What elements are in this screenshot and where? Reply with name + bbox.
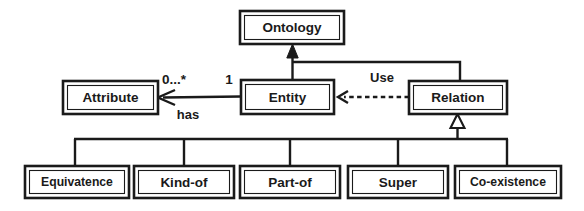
class-box-entity[interactable]: Entity [241, 80, 334, 114]
super-label: Super [379, 175, 418, 190]
class-box-co-existence[interactable]: Co-existence [455, 166, 561, 198]
hollow-triangle-arrowhead-relation [451, 114, 465, 128]
relation-label: Relation [431, 90, 484, 105]
open-arrowhead-entity [338, 91, 348, 103]
solid-triangle-arrowhead-ontology [287, 44, 298, 58]
class-box-super[interactable]: Super [348, 166, 448, 198]
entity-attribute-line [163, 97, 241, 98]
association-name-has: has [177, 107, 199, 122]
part-of-label: Part-of [268, 175, 312, 190]
edge-relation-to-entity-use [338, 91, 409, 103]
multiplicity-label-attribute-end: 0...* [162, 72, 187, 87]
attribute-label: Attribute [82, 90, 139, 105]
multiplicity-label-entity-end: 1 [225, 72, 233, 87]
diagram-canvas: Ontology Attribute Entity Relation Equiv… [0, 0, 584, 211]
uml-class-diagram: Ontology Attribute Entity Relation Equiv… [0, 0, 584, 211]
edge-entity-to-attribute [158, 90, 241, 105]
class-box-kind-of[interactable]: Kind-of [134, 166, 234, 198]
ontology-label: Ontology [262, 20, 322, 35]
class-box-equivatence[interactable]: Equivatence [25, 166, 129, 198]
kind-of-label: Kind-of [160, 175, 208, 190]
class-box-part-of[interactable]: Part-of [240, 166, 340, 198]
class-box-relation[interactable]: Relation [409, 81, 507, 114]
class-box-ontology[interactable]: Ontology [240, 11, 344, 44]
edge-generalization-relation-subtypes [74, 114, 508, 166]
entity-label: Entity [269, 90, 307, 105]
dependency-name-use: Use [370, 70, 394, 85]
co-existence-label: Co-existence [470, 175, 546, 189]
equivatence-label: Equivatence [41, 175, 113, 189]
class-box-attribute[interactable]: Attribute [63, 81, 158, 114]
